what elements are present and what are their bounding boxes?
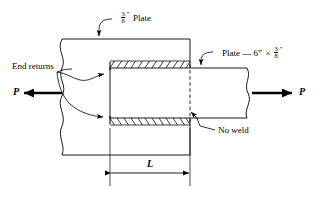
gusset-plate-thickness-fraction: 3 8 — [121, 11, 125, 26]
lap-plate-break-line — [246, 68, 249, 118]
gusset-plate-label-text: Plate — [133, 14, 151, 23]
dimension-label-L: L — [147, 159, 153, 169]
no-weld-label: No weld — [218, 126, 249, 135]
weld-hatching-top — [110, 61, 190, 68]
leader-end-return-top — [57, 72, 104, 80]
lap-plate-inch-mark: ” — [280, 46, 283, 52]
figure-linework — [0, 0, 324, 197]
lap-plate-label-times: × — [266, 49, 271, 58]
lap-plate-label: Plate — 6” × 3 8 ” — [222, 46, 283, 61]
leader-end-return-bottom — [57, 72, 103, 117]
force-label-left: P — [13, 87, 19, 97]
lap-plate-label-prefix: Plate — 6” — [222, 49, 262, 58]
gusset-plate-inch-mark: ” — [127, 11, 130, 17]
end-returns-label: End returns — [12, 62, 54, 71]
leader-no-weld — [191, 112, 215, 130]
leader-gusset-plate — [99, 19, 112, 36]
gusset-plate-label: 3 8 ” Plate — [121, 11, 151, 26]
leader-lap-plate — [201, 52, 213, 65]
gusset-plate-break-line — [60, 39, 64, 155]
leader-end-returns-tail — [57, 69, 72, 72]
lap-plate-thickness-fraction: 3 8 — [274, 46, 278, 61]
weld-detail-figure: 3 8 ” Plate Plate — 6” × 3 8 ” End retur… — [0, 0, 324, 197]
force-label-right: P — [299, 87, 305, 97]
weld-hatching-bottom — [110, 118, 190, 125]
